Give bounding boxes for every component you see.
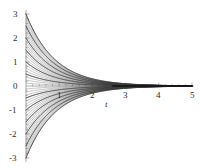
solution-curve	[26, 86, 192, 140]
solution-curve	[26, 14, 192, 86]
solution-curve	[26, 86, 192, 125]
solution-curve	[26, 47, 192, 86]
y-tick-label-3: 3	[13, 10, 18, 19]
x-tick-label-5: 5	[190, 91, 195, 100]
solution-curve	[26, 86, 192, 149]
exponential-decay-plot: 3 2 1 0 -1 -2 -3 1 2 3 4 5 t	[0, 0, 206, 168]
plot-canvas	[0, 0, 206, 168]
x-tick-label-2: 2	[90, 91, 95, 100]
solution-curve	[26, 86, 192, 158]
y-tick-label-neg2: -2	[9, 130, 17, 139]
x-tick-label-4: 4	[156, 91, 161, 100]
y-tick-label-neg3: -3	[9, 154, 17, 163]
y-tick-label-1: 1	[13, 58, 18, 67]
solution-curve	[26, 23, 192, 86]
x-axis-label: t	[105, 100, 108, 109]
solution-curve-labeled	[26, 86, 192, 158]
y-tick-label-neg1: -1	[9, 106, 17, 115]
x-tick-label-1: 1	[57, 91, 62, 100]
solution-curve	[26, 32, 192, 86]
y-tick-label-2: 2	[13, 34, 18, 43]
y-tick-label-0: 0	[13, 82, 18, 91]
solution-curve-labeled	[26, 14, 192, 86]
x-tick-label-3: 3	[123, 91, 128, 100]
